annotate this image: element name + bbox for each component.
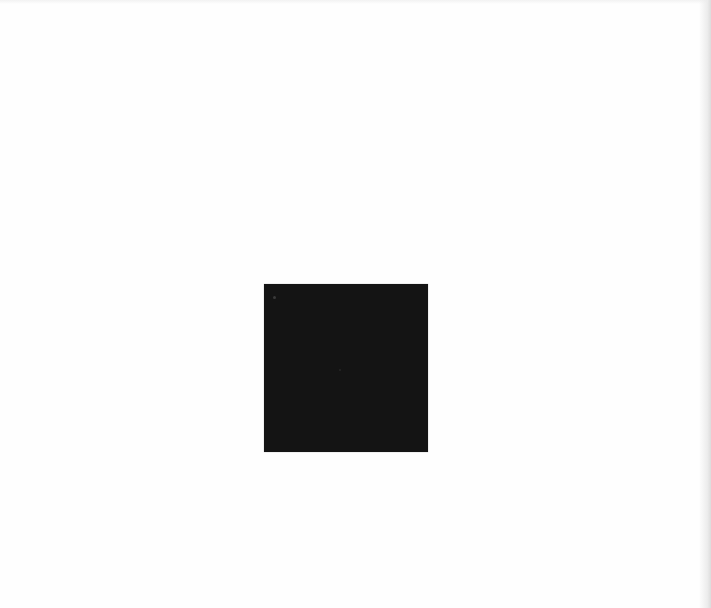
page-top-edge-shadow — [0, 0, 711, 4]
scan-speck — [339, 369, 341, 371]
black-square-figure — [264, 284, 428, 452]
scan-speck — [273, 296, 276, 299]
scanned-page — [0, 0, 711, 608]
page-right-edge-shadow — [699, 0, 711, 608]
